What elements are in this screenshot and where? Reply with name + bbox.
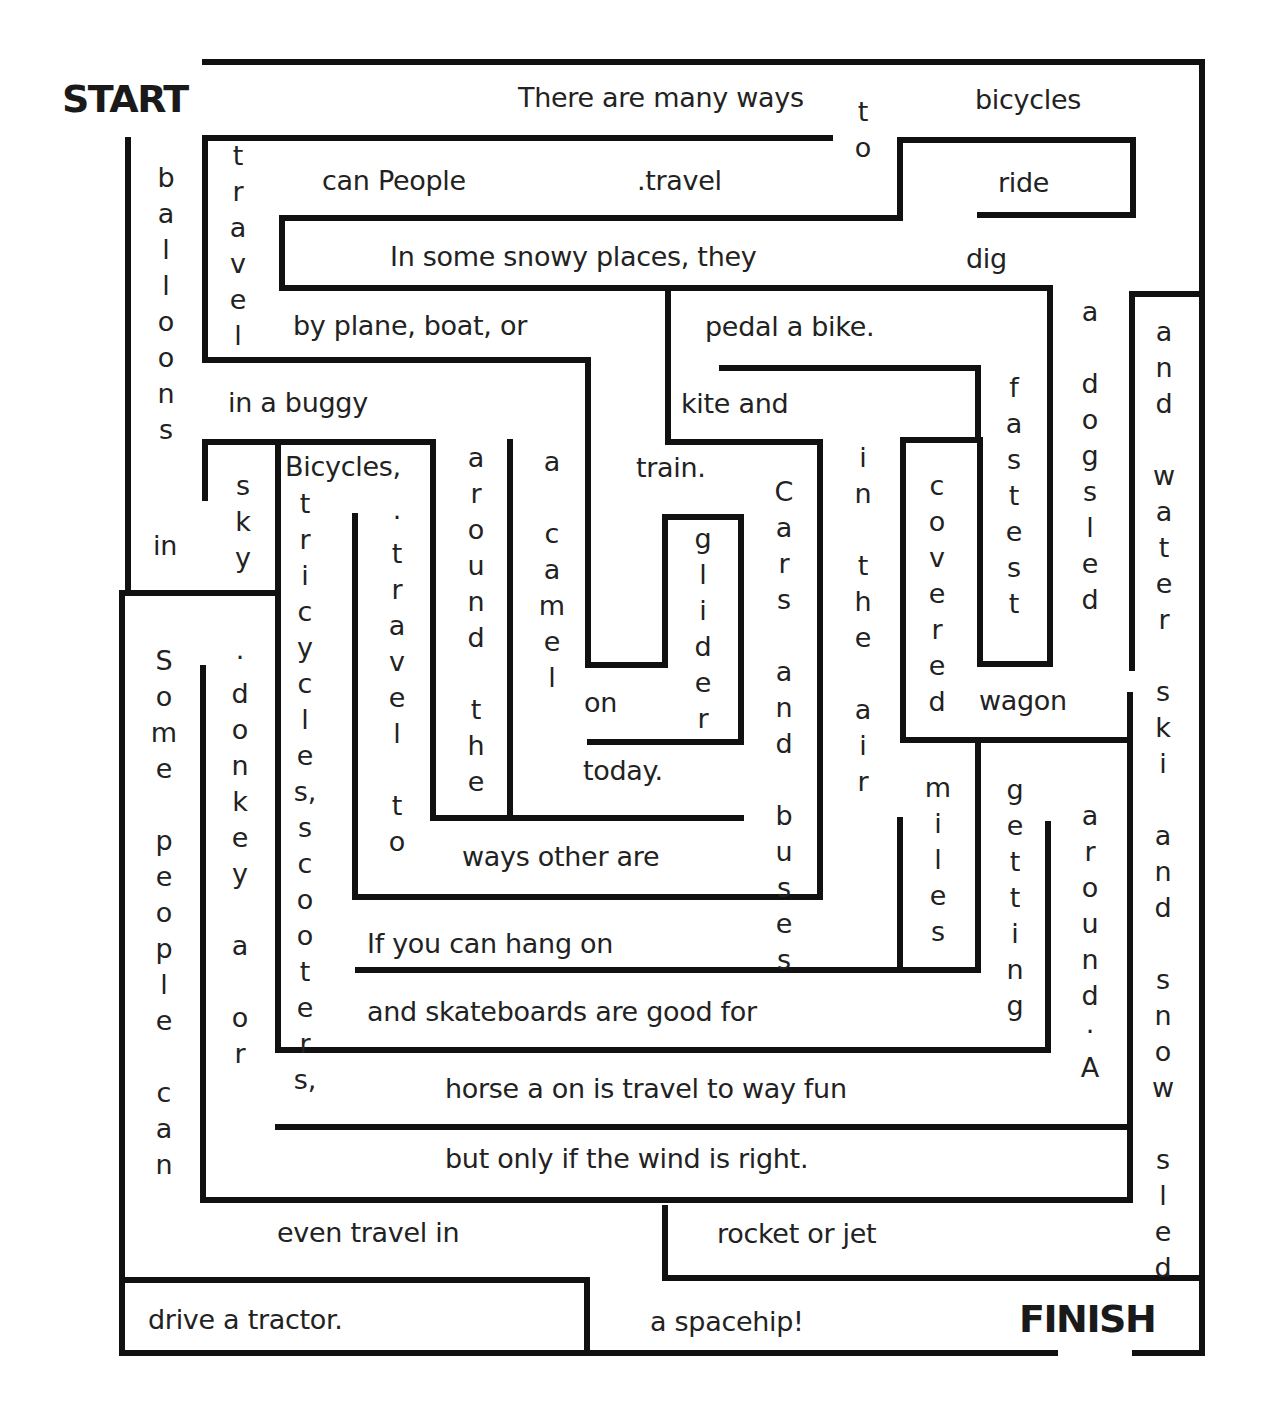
maze-phrase: bicycles xyxy=(975,86,1081,113)
maze-vertical-word: t r i c y c l e s, s c o o t e r s, xyxy=(290,486,320,1098)
maze-phrase: Bicycles, xyxy=(285,453,401,480)
maze-phrase: kite and xyxy=(681,390,788,417)
maze-phrase: in a buggy xyxy=(228,389,368,416)
maze-vertical-word: g l i d e r xyxy=(688,521,718,737)
maze-phrase: .travel xyxy=(637,167,722,194)
maze-vertical-word: a r o u n d t h e xyxy=(461,440,491,800)
maze-walls xyxy=(0,0,1267,1422)
maze-phrase: ride xyxy=(998,169,1049,196)
maze-vertical-word: · d o n k e y a o r xyxy=(225,640,255,1072)
maze-vertical-word: d o g s l e d xyxy=(1075,366,1105,618)
maze-vertical-word: a xyxy=(1075,294,1105,330)
maze-phrase: wagon xyxy=(979,687,1067,714)
maze-phrase: on xyxy=(584,689,617,716)
maze-phrase: even travel in xyxy=(277,1219,459,1246)
maze-vertical-word: g e t t i n g xyxy=(1000,772,1030,1024)
maze-phrase: ways other are xyxy=(462,843,659,870)
maze-phrase: in xyxy=(153,532,177,559)
maze-vertical-word: a c a m e l xyxy=(537,444,567,696)
maze-vertical-word: · t r a v e l t o xyxy=(382,500,412,860)
maze-vertical-word: C a r s a n d b u s e s xyxy=(769,474,799,978)
maze-vertical-word: s k y xyxy=(228,468,258,576)
maze-phrase: drive a tractor. xyxy=(148,1306,343,1333)
maze-vertical-word: s k i a n d s n o w s l e d xyxy=(1148,674,1178,1286)
maze-vertical-word: i n t h e a i r xyxy=(848,440,878,800)
maze-vertical-word: c o v e r e d xyxy=(922,468,952,720)
finish-label: FINISH xyxy=(1019,1300,1155,1338)
maze-phrase: by plane, boat, or xyxy=(293,312,527,339)
maze-vertical-word: S o m e p e o p l e c a n xyxy=(149,643,179,1183)
maze-phrase: a spacehip! xyxy=(650,1308,804,1335)
maze-phrase: today. xyxy=(583,757,663,784)
start-label: START xyxy=(62,80,188,118)
maze-phrase: In some snowy places, they xyxy=(390,243,756,270)
maze-phrase: dig xyxy=(966,245,1007,272)
maze-vertical-word: a r o u n d · A xyxy=(1075,798,1105,1086)
maze-phrase: train. xyxy=(636,454,706,481)
maze-phrase: pedal a bike. xyxy=(705,313,874,340)
maze-phrase: There are many ways xyxy=(518,84,804,111)
maze-vertical-word: b a l l o o n s xyxy=(151,160,181,448)
maze-vertical-word: m i l e s xyxy=(923,770,953,950)
maze-phrase: and skateboards are good for xyxy=(367,998,757,1025)
maze-phrase: can People xyxy=(322,167,466,194)
maze-phrase: rocket or jet xyxy=(717,1220,876,1247)
maze-phrase: but only if the wind is right. xyxy=(445,1145,808,1172)
maze-phrase: horse a on is travel to way fun xyxy=(445,1075,847,1102)
maze-vertical-word: t o xyxy=(848,94,878,166)
maze-vertical-word: f a s t e s t xyxy=(999,370,1029,622)
maze-vertical-word: a n d w a t e r xyxy=(1149,314,1179,638)
maze-vertical-word: t r a v e l xyxy=(223,138,253,354)
maze-phrase: If you can hang on xyxy=(367,930,613,957)
